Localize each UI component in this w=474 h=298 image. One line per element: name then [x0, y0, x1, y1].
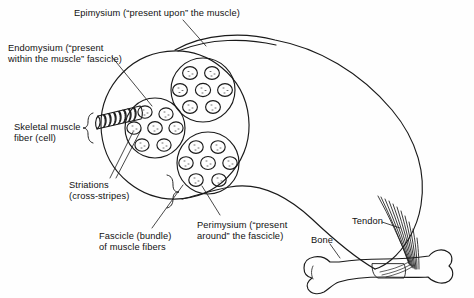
label-skeletal-muscle-fiber-line1: Skeletal muscle — [14, 122, 81, 133]
label-bone: Bone — [311, 235, 333, 246]
label-epimysium: Epimysium (“present upon” the muscle) — [74, 8, 240, 19]
label-perimysium-line1: Perimysium (“present — [197, 220, 287, 231]
label-striations-line2: (cross-stripes) — [69, 191, 129, 202]
muscle-anatomy-diagram: Epimysium (“present upon” the muscle) En… — [0, 0, 474, 298]
label-perimysium-line2: around” the fascicle) — [197, 231, 283, 242]
leader-fascicle — [152, 185, 183, 228]
fascicle-lower — [177, 132, 239, 194]
label-striations-line1: Striations — [69, 180, 109, 191]
bone-marking-left — [312, 266, 314, 279]
perimysium-bracket — [167, 175, 179, 208]
label-endomysium-line2: within the muscle” fascicle) — [8, 54, 122, 65]
fiber-label-brace — [83, 113, 93, 143]
leader-epimysium — [183, 20, 206, 46]
label-endomysium-line1: Endomysium (“present — [8, 43, 104, 54]
leader-striations-2 — [116, 130, 141, 178]
label-tendon: Tendon — [352, 216, 383, 227]
label-fascicle-line1: Fascicle (bundle) — [99, 231, 172, 242]
fascicle-lower-fibers — [179, 141, 237, 187]
fascicle-upper-fiber-stipple — [178, 72, 228, 111]
bone — [304, 250, 453, 294]
label-skeletal-muscle-fiber-line2: fiber (cell) — [14, 133, 56, 144]
leader-striations — [110, 132, 133, 178]
leader-perimysium — [202, 186, 220, 215]
label-fascicle-line2: of muscle fibers — [99, 242, 166, 253]
bone-shaft-outline — [304, 250, 453, 294]
fascicle-upper-fibers — [173, 67, 233, 114]
